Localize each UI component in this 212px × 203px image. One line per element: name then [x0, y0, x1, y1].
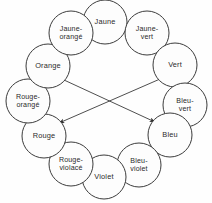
- color-node-label-line: Jaune-: [60, 25, 83, 33]
- complementary-axis-arrow-vert-rouge: [59, 79, 160, 123]
- color-node-label-vert: Vert: [168, 60, 182, 69]
- color-node-label-line: violet: [130, 165, 147, 173]
- color-node-label-jaune: Jaune: [95, 17, 116, 26]
- color-node-label-line: orangé: [17, 101, 40, 109]
- complementary-axes-group: [59, 79, 160, 123]
- color-node-label-line: Bleu-: [176, 97, 194, 105]
- color-node-label-line: Bleu-: [130, 157, 148, 165]
- color-node-label-bleu: Bleu: [162, 130, 177, 139]
- color-node-label-orange: Orange: [35, 61, 61, 70]
- color-node-label-rouge: Rouge: [33, 131, 56, 140]
- color-node-label-violet: Violet: [94, 172, 113, 181]
- color-node-label-line: vert: [179, 105, 191, 113]
- color-node-label-jaune-orange: Jaune-orangé: [60, 25, 83, 41]
- color-node-jaune-orange[interactable]: Jaune-orangé: [49, 11, 93, 55]
- color-node-label-bleu-violet: Bleu-violet: [130, 157, 148, 173]
- color-node-vert[interactable]: Vert: [153, 43, 197, 87]
- color-node-label-line: Rouge-: [16, 93, 41, 101]
- color-node-label-line: orangé: [60, 33, 83, 41]
- color-node-label-rouge-violace: Rouge-violacé: [59, 156, 84, 172]
- color-node-label-rouge-orange: Rouge-orangé: [16, 93, 41, 109]
- color-node-label-line: violacé: [59, 164, 82, 172]
- color-wheel-diagram: JauneJaune-vertVertBleu-vertBleuBleu-vio…: [0, 0, 212, 203]
- color-node-label-line: Jaune-: [136, 25, 159, 33]
- color-node-label-line: vert: [141, 33, 153, 41]
- color-wheel-canvas: JauneJaune-vertVertBleu-vertBleuBleu-vio…: [0, 0, 212, 203]
- color-node-label-line: Rouge-: [59, 156, 84, 164]
